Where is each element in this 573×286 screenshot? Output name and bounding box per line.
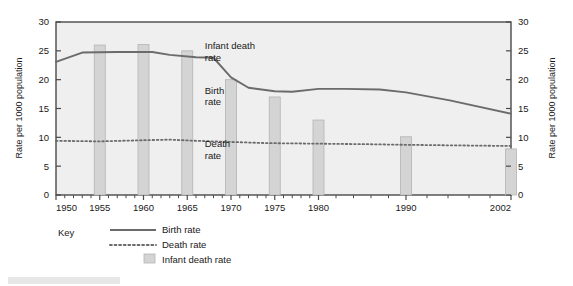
chart-annotation: rate [205,150,221,161]
x-tick-label: 1980 [308,202,329,213]
x-tick-label: 1990 [395,202,416,213]
chart-annotation: Birth [205,85,225,96]
x-tick-label: 1970 [220,202,241,213]
plot-background [56,22,511,195]
x-tick-label: 1950 [56,202,77,213]
legend-items: Birth rateDeath rateInfant death rate [110,224,231,265]
chart-annotation: Death [205,138,230,149]
chart-legend: Key Birth rateDeath rateInfant death rat… [58,224,231,265]
page-footer-rule [8,277,120,284]
y-tick-label-left: 20 [38,74,49,85]
infant-death-rate-bar [506,149,517,195]
legend-entry-label: Birth rate [162,224,201,235]
x-tick-label: 1965 [177,202,198,213]
y-tick-label-right: 25 [518,45,529,56]
x-tick-label: 1955 [89,202,110,213]
y-tick-label-right: 0 [518,189,523,200]
y-axis-left-title: Rate per 1000 population [14,57,24,158]
chart-annotation: Infant death [205,40,255,51]
y-tick-label-right: 10 [518,132,529,143]
y-tick-label-left: 30 [38,16,49,27]
legend-swatch-infant-death-rate [144,254,155,263]
infant-death-rate-bar [138,44,149,195]
x-tick-label: 2002 [490,202,511,213]
y-tick-label-left: 10 [38,132,49,143]
legend-entry-label: Infant death rate [162,254,231,265]
y-tick-label-left: 15 [38,103,49,114]
y-tick-label-left: 25 [38,45,49,56]
chart-annotation: rate [205,96,221,107]
y-tick-label-right: 15 [518,103,529,114]
y-tick-label-left: 0 [44,189,49,200]
y-tick-label-right: 30 [518,16,529,27]
infant-death-rate-bar [269,97,280,195]
chart-annotation: rate [205,52,221,63]
x-tick-label: 1960 [133,202,154,213]
birth-death-infant-rate-chart: 051015202530 051015202530 19501955196019… [0,0,573,286]
infant-death-rate-bar [94,45,105,195]
infant-death-rate-bar [313,120,324,195]
legend-entry-label: Death rate [162,239,206,250]
y-axis-right-title: Rate per 1000 population [547,57,557,158]
y-tick-label-right: 20 [518,74,529,85]
y-tick-label-left: 5 [44,161,49,172]
y-tick-label-right: 5 [518,161,523,172]
x-tick-label: 1975 [264,202,285,213]
infant-death-rate-bar [182,51,193,195]
chart-figure: 051015202530 051015202530 19501955196019… [0,0,573,286]
legend-title: Key [58,227,75,238]
